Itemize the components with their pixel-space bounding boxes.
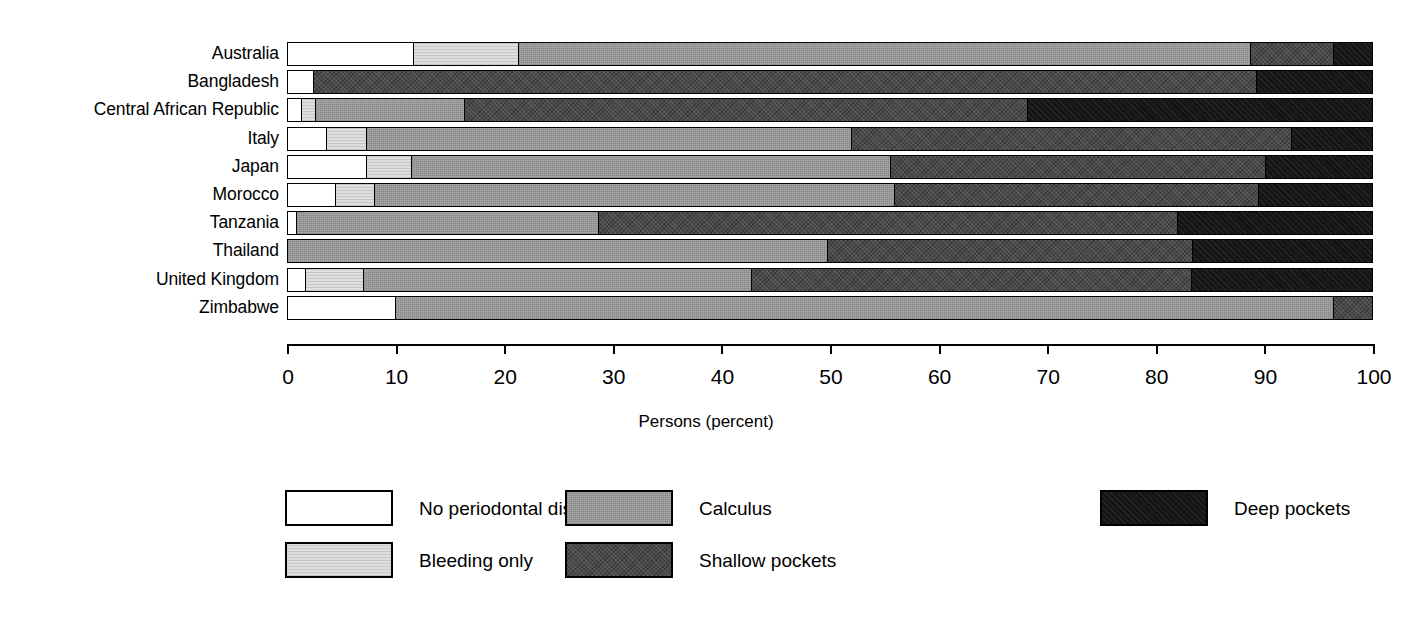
bar-segment-calculus bbox=[364, 269, 752, 291]
bar-row bbox=[287, 155, 1373, 179]
bar-segment-calculus bbox=[367, 128, 852, 150]
x-tick-label: 60 bbox=[928, 366, 951, 387]
plot-area: AustraliaBangladeshCentral African Repub… bbox=[0, 0, 1412, 400]
x-tick bbox=[396, 344, 398, 354]
x-tick bbox=[721, 344, 723, 354]
bar-segment-none bbox=[288, 297, 396, 319]
x-tick-label: 20 bbox=[494, 366, 517, 387]
bar-segment-shallow bbox=[752, 269, 1192, 291]
x-tick bbox=[939, 344, 941, 354]
bar-segment-shallow bbox=[895, 184, 1259, 206]
category-label: Tanzania bbox=[210, 214, 279, 232]
category-label: Australia bbox=[212, 45, 279, 63]
bar-row bbox=[287, 127, 1373, 151]
bar-segment-deep bbox=[1192, 269, 1372, 291]
bar-segment-deep bbox=[1259, 184, 1372, 206]
bar-segment-shallow bbox=[1251, 43, 1334, 65]
bar-segment-calculus bbox=[288, 240, 828, 262]
legend-label: Deep pockets bbox=[1234, 499, 1350, 518]
bar-segment-shallow bbox=[465, 99, 1029, 121]
bar-segment-bleeding bbox=[306, 269, 363, 291]
bar-segment-bleeding bbox=[327, 128, 367, 150]
bar-segment-shallow bbox=[599, 212, 1178, 234]
x-tick-label: 90 bbox=[1254, 366, 1277, 387]
x-tick bbox=[830, 344, 832, 354]
bar-segment-bleeding bbox=[367, 156, 411, 178]
x-tick bbox=[1156, 344, 1158, 354]
x-tick-label: 70 bbox=[1037, 366, 1060, 387]
legend-swatch-calculus-icon bbox=[565, 490, 673, 526]
legend: No periodontal diseaseBleeding onlyCalcu… bbox=[0, 470, 1412, 600]
x-tick-label: 100 bbox=[1356, 366, 1391, 387]
bar-segment-bleeding bbox=[336, 184, 375, 206]
legend-label: Bleeding only bbox=[419, 551, 533, 570]
category-label: United Kingdom bbox=[156, 271, 279, 289]
x-tick bbox=[1373, 344, 1375, 354]
bar-segment-calculus bbox=[519, 43, 1251, 65]
x-tick-label: 80 bbox=[1145, 366, 1168, 387]
bar-segment-deep bbox=[1178, 212, 1372, 234]
x-tick-label: 0 bbox=[282, 366, 294, 387]
bar-segment-calculus bbox=[412, 156, 891, 178]
legend-item-deep[interactable]: Deep pockets bbox=[1100, 490, 1350, 526]
category-label: Bangladesh bbox=[188, 73, 279, 91]
legend-swatch-none-icon bbox=[285, 490, 393, 526]
legend-label: Shallow pockets bbox=[699, 551, 836, 570]
bar-segment-shallow bbox=[314, 71, 1257, 93]
x-tick bbox=[1264, 344, 1266, 354]
bar-row bbox=[287, 42, 1373, 66]
category-label: Japan bbox=[232, 158, 279, 176]
bar-row bbox=[287, 268, 1373, 292]
x-tick-label: 50 bbox=[819, 366, 842, 387]
bar-segment-none bbox=[288, 99, 302, 121]
bar-segment-shallow bbox=[852, 128, 1292, 150]
bar-segment-deep bbox=[1193, 240, 1372, 262]
legend-item-calculus[interactable]: Calculus bbox=[565, 490, 772, 526]
category-label: Italy bbox=[247, 130, 279, 148]
bar-segment-none bbox=[288, 156, 367, 178]
legend-item-shallow[interactable]: Shallow pockets bbox=[565, 542, 836, 578]
x-tick bbox=[613, 344, 615, 354]
bar-segment-shallow bbox=[1334, 297, 1372, 319]
x-tick-label: 40 bbox=[711, 366, 734, 387]
bar-segment-none bbox=[288, 43, 414, 65]
bar-segment-none bbox=[288, 71, 314, 93]
bar-segment-none bbox=[288, 128, 327, 150]
bar-segment-deep bbox=[1292, 128, 1372, 150]
legend-swatch-shallow-icon bbox=[565, 542, 673, 578]
x-tick-label: 30 bbox=[602, 366, 625, 387]
bar-segment-none bbox=[288, 212, 297, 234]
x-tick bbox=[1047, 344, 1049, 354]
bar-segment-deep bbox=[1334, 43, 1372, 65]
x-tick bbox=[504, 344, 506, 354]
bar-segment-shallow bbox=[828, 240, 1193, 262]
bar-segment-shallow bbox=[891, 156, 1266, 178]
bar-row bbox=[287, 239, 1373, 263]
x-axis-title: Persons (percent) bbox=[0, 412, 1412, 432]
bar-segment-none bbox=[288, 269, 306, 291]
bar-segment-deep bbox=[1028, 99, 1372, 121]
legend-label: Calculus bbox=[699, 499, 772, 518]
bar-segment-calculus bbox=[316, 99, 465, 121]
bar-row bbox=[287, 296, 1373, 320]
bar-row bbox=[287, 70, 1373, 94]
legend-item-bleeding[interactable]: Bleeding only bbox=[285, 542, 533, 578]
category-label: Thailand bbox=[213, 242, 279, 260]
x-tick bbox=[287, 344, 289, 354]
bar-segment-bleeding bbox=[414, 43, 519, 65]
category-label: Morocco bbox=[213, 186, 279, 204]
category-label: Zimbabwe bbox=[199, 299, 279, 317]
bar-segment-bleeding bbox=[302, 99, 316, 121]
legend-swatch-bleeding-icon bbox=[285, 542, 393, 578]
x-tick-label: 10 bbox=[385, 366, 408, 387]
category-label: Central African Republic bbox=[94, 101, 279, 119]
bar-segment-calculus bbox=[375, 184, 895, 206]
bar-row bbox=[287, 183, 1373, 207]
bar-segment-deep bbox=[1266, 156, 1372, 178]
bar-segment-calculus bbox=[396, 297, 1334, 319]
chart-figure: AustraliaBangladeshCentral African Repub… bbox=[0, 0, 1412, 620]
bar-segment-deep bbox=[1257, 71, 1372, 93]
bar-row bbox=[287, 211, 1373, 235]
bar-segment-calculus bbox=[297, 212, 599, 234]
legend-swatch-deep-icon bbox=[1100, 490, 1208, 526]
